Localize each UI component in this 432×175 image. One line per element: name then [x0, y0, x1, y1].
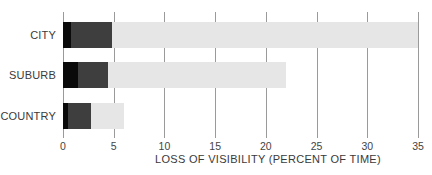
x-tick-label: 35 — [412, 140, 424, 152]
category-label-city: CITY — [30, 29, 56, 41]
bar-suburb-segment-black — [63, 62, 78, 88]
stacked-bar-chart: CITY SUBURB COUNTRY 05101520253035 LOSS … — [0, 0, 432, 175]
x-tick-label: 25 — [311, 140, 323, 152]
bar-suburb-segment-light-gray — [108, 62, 287, 88]
x-tick-label: 0 — [60, 140, 66, 152]
x-tick-label: 30 — [361, 140, 373, 152]
bar-suburb-segment-dark-gray — [78, 62, 107, 88]
x-tick-label: 10 — [159, 140, 171, 152]
x-tick-label: 20 — [260, 140, 272, 152]
gridline — [418, 12, 419, 138]
x-tick-label: 5 — [111, 140, 117, 152]
x-axis-label: LOSS OF VISIBILITY (PERCENT OF TIME) — [118, 153, 418, 165]
bar-city-segment-black — [63, 22, 71, 48]
bar-city-segment-dark-gray — [71, 22, 112, 48]
bar-country-segment-dark-gray — [68, 103, 91, 129]
category-label-suburb: SUBURB — [9, 69, 56, 81]
bar-city-segment-light-gray — [112, 22, 418, 48]
category-label-country: COUNTRY — [0, 110, 56, 122]
bar-country-segment-light-gray — [91, 103, 123, 129]
x-tick-label: 15 — [209, 140, 221, 152]
